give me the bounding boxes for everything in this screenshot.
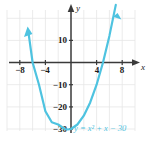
x-axis-label: x bbox=[140, 62, 145, 72]
x-tick-label: −4 bbox=[40, 65, 50, 75]
x-tick-label: 8 bbox=[120, 65, 125, 75]
y-tick-label: 10 bbox=[58, 35, 68, 45]
y-tick-label: −20 bbox=[53, 102, 68, 112]
equation-label: y = x² + x − 30 bbox=[73, 123, 127, 133]
y-axis-label: y bbox=[75, 3, 80, 13]
x-tick-label: −8 bbox=[15, 65, 25, 75]
y-tick-label: −10 bbox=[53, 80, 68, 90]
parabola-plot: −8 −4 4 8 10 −10 −20 −30 x y y = x² + x … bbox=[0, 0, 150, 144]
figure-container: −8 −4 4 8 10 −10 −20 −30 x y y = x² + x … bbox=[0, 0, 150, 144]
